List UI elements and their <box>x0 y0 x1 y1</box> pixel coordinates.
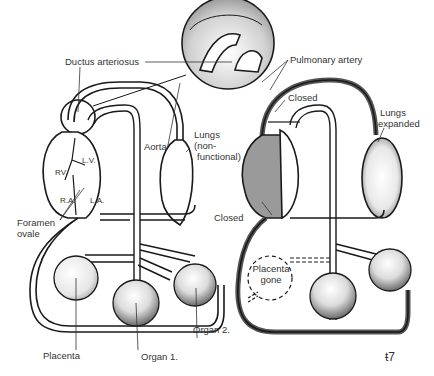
label-placenta-gone-1: Placenta <box>252 264 290 274</box>
organ-2 <box>174 264 216 306</box>
label-lungs-note-2: functional) <box>197 152 241 162</box>
label-rv: RV. <box>55 168 67 178</box>
label-ra: R.A. <box>60 196 76 206</box>
organ-1-right <box>310 273 356 319</box>
label-organ-1: Organ 1. <box>141 352 178 362</box>
label-lungs: Lungs <box>194 130 220 140</box>
label-placenta-gone-2: gone <box>252 275 290 285</box>
label-foramen-ovale-2: ovale <box>17 229 40 239</box>
label-pulmonary-artery: Pulmonary artery <box>290 55 362 65</box>
heart-newborn <box>242 135 282 218</box>
label-aorta: Aorta <box>144 142 167 152</box>
label-placenta: Placenta <box>43 351 80 361</box>
label-lungs-note-1: (non- <box>194 141 216 151</box>
label-closed-mid: Closed <box>214 213 244 223</box>
organ-2-right <box>369 249 411 291</box>
label-lungs-expanded-2: expanded <box>378 119 420 129</box>
artist-signature: ŧ7 <box>385 352 395 362</box>
label-foramen-ovale-1: Foramen <box>17 218 55 228</box>
label-closed-top: Closed <box>288 93 318 103</box>
lung-right-expanded <box>362 138 402 218</box>
lung-left-nonfunctional <box>160 140 193 225</box>
magnifier-ductus <box>182 0 274 89</box>
label-la: L.A. <box>90 196 104 206</box>
label-lv: L.V. <box>82 156 96 166</box>
label-ductus-arteriosus: Ductus arteriosus <box>65 57 139 67</box>
label-organ-2: Organ 2. <box>193 325 230 335</box>
label-lungs-expanded-1: Lungs <box>380 108 406 118</box>
